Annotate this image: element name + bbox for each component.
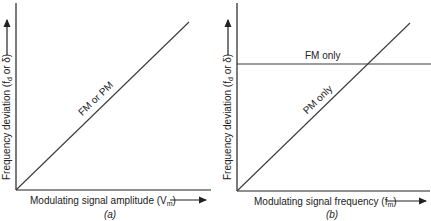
diagram-canvas: FM or PM Modulating signal amplitude (Vm…: [0, 0, 431, 221]
panel-b-pm-label: PM only: [301, 83, 335, 116]
panel-b-fm-label: FM only: [305, 50, 341, 61]
panel-b-y-label: Frequency deviation (fd or δ): [222, 54, 234, 180]
panel-a-y-label: Frequency deviation (fd or δ): [1, 54, 13, 180]
panel-a-line-label: FM or PM: [76, 79, 115, 117]
panel-b-pm-only-line: [237, 23, 410, 191]
panel-b: FM only PM only Modulating signal freque…: [222, 3, 431, 220]
panel-a-caption: (a): [104, 209, 116, 220]
panel-a: FM or PM Modulating signal amplitude (Vm…: [1, 3, 211, 220]
panel-b-x-label: Modulating signal frequency (fm): [254, 196, 397, 208]
panel-a-fm-or-pm-line: [16, 22, 189, 190]
panel-a-x-label: Modulating signal amplitude (Vm): [30, 195, 176, 207]
panel-b-caption: (b): [326, 209, 338, 220]
